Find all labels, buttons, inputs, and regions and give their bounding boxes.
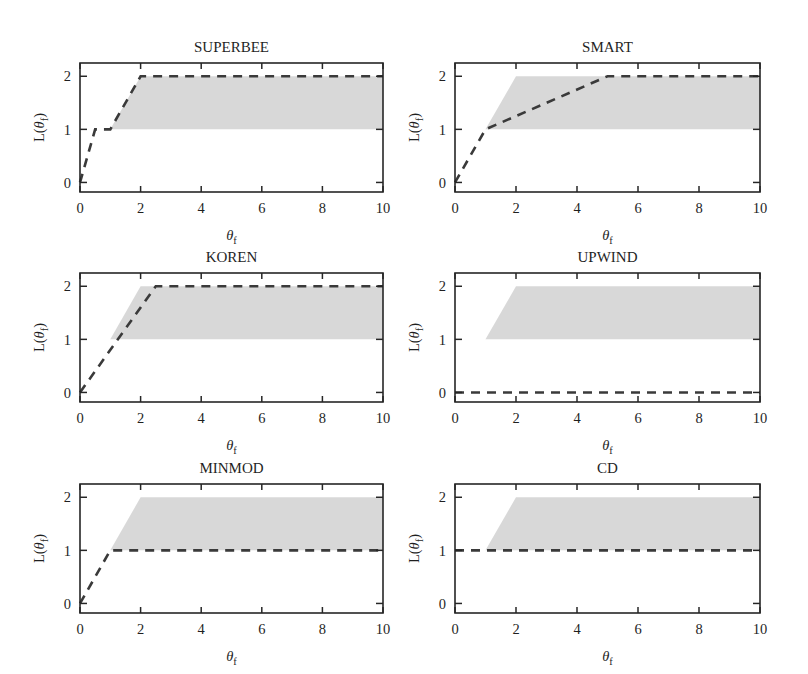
x-tick-label: 2 bbox=[512, 410, 519, 426]
y-tick-label: 1 bbox=[439, 122, 446, 138]
chart-title: KOREN bbox=[206, 249, 258, 265]
chart-title: SMART bbox=[582, 39, 633, 55]
x-axis-label: θf bbox=[226, 648, 237, 667]
x-tick-label: 6 bbox=[634, 410, 641, 426]
chart-panel-cd: CD0246810012θfL(θf) bbox=[403, 454, 778, 671]
chart-panel-smart: SMART0246810012θfL(θf) bbox=[403, 33, 778, 250]
y-tick-label: 0 bbox=[439, 385, 446, 401]
x-tick-label: 10 bbox=[753, 200, 768, 216]
x-tick-label: 6 bbox=[634, 621, 641, 637]
x-tick-label: 4 bbox=[573, 410, 581, 426]
y-tick-label: 2 bbox=[64, 278, 71, 294]
x-tick-label: 8 bbox=[319, 200, 326, 216]
tvd-region-band bbox=[80, 76, 383, 182]
chart-panel-superbee: SUPERBEE0246810012θfL(θf) bbox=[28, 33, 401, 250]
y-axis-label: L(θf) bbox=[406, 323, 425, 352]
x-tick-label: 2 bbox=[137, 621, 144, 637]
x-tick-label: 0 bbox=[76, 410, 83, 426]
y-axis-label: L(θf) bbox=[406, 113, 425, 142]
y-tick-label: 1 bbox=[439, 543, 446, 559]
chart-panel-upwind: UPWIND0246810012θfL(θf) bbox=[403, 243, 778, 460]
x-tick-label: 10 bbox=[753, 410, 768, 426]
x-tick-label: 2 bbox=[137, 200, 144, 216]
y-tick-label: 2 bbox=[64, 489, 71, 505]
y-tick-label: 2 bbox=[439, 68, 446, 84]
y-tick-label: 2 bbox=[439, 489, 446, 505]
chart-panel-minmod: MINMOD0246810012θfL(θf) bbox=[28, 454, 401, 671]
x-tick-label: 0 bbox=[76, 200, 83, 216]
y-tick-label: 0 bbox=[439, 596, 446, 612]
x-tick-label: 8 bbox=[695, 200, 702, 216]
x-tick-label: 8 bbox=[695, 621, 702, 637]
x-tick-label: 0 bbox=[76, 621, 83, 637]
x-tick-label: 8 bbox=[695, 410, 702, 426]
y-tick-label: 0 bbox=[439, 175, 446, 191]
y-tick-label: 1 bbox=[64, 543, 71, 559]
y-tick-label: 1 bbox=[64, 332, 71, 348]
tvd-region-band bbox=[455, 76, 760, 182]
y-tick-label: 2 bbox=[439, 278, 446, 294]
chart-title: MINMOD bbox=[199, 460, 263, 476]
x-tick-label: 0 bbox=[451, 410, 458, 426]
x-tick-label: 10 bbox=[753, 621, 768, 637]
tvd-region-band bbox=[455, 286, 760, 392]
y-axis-label: L(θf) bbox=[31, 534, 50, 563]
y-tick-label: 1 bbox=[64, 122, 71, 138]
x-tick-label: 8 bbox=[319, 621, 326, 637]
x-tick-label: 0 bbox=[451, 621, 458, 637]
x-tick-label: 6 bbox=[258, 621, 265, 637]
x-tick-label: 10 bbox=[376, 410, 391, 426]
x-tick-label: 4 bbox=[573, 200, 581, 216]
x-tick-label: 6 bbox=[258, 200, 265, 216]
x-tick-label: 8 bbox=[319, 410, 326, 426]
y-tick-label: 0 bbox=[64, 596, 71, 612]
limiter-curve bbox=[80, 550, 383, 603]
y-axis-label: L(θf) bbox=[31, 113, 50, 142]
y-tick-label: 0 bbox=[64, 175, 71, 191]
chart-title: SUPERBEE bbox=[194, 39, 269, 55]
x-tick-label: 2 bbox=[512, 621, 519, 637]
chart-panel-koren: KOREN0246810012θfL(θf) bbox=[28, 243, 401, 460]
x-tick-label: 4 bbox=[198, 200, 206, 216]
x-tick-label: 4 bbox=[198, 621, 206, 637]
y-axis-label: L(θf) bbox=[406, 534, 425, 563]
tvd-region-band bbox=[80, 286, 383, 392]
chart-title: UPWIND bbox=[578, 249, 638, 265]
x-tick-label: 4 bbox=[573, 621, 581, 637]
limiter-diagram-figure: SUPERBEE0246810012θfL(θf)SMART0246810012… bbox=[0, 0, 808, 674]
x-tick-label: 4 bbox=[198, 410, 206, 426]
y-tick-label: 1 bbox=[439, 332, 446, 348]
x-tick-label: 2 bbox=[512, 200, 519, 216]
x-axis-label: θf bbox=[602, 648, 613, 667]
y-tick-label: 2 bbox=[64, 68, 71, 84]
x-tick-label: 10 bbox=[376, 621, 391, 637]
x-tick-label: 6 bbox=[258, 410, 265, 426]
x-tick-label: 6 bbox=[634, 200, 641, 216]
chart-title: CD bbox=[597, 460, 618, 476]
x-tick-label: 2 bbox=[137, 410, 144, 426]
y-tick-label: 0 bbox=[64, 385, 71, 401]
x-tick-label: 0 bbox=[451, 200, 458, 216]
y-axis-label: L(θf) bbox=[31, 323, 50, 352]
x-tick-label: 10 bbox=[376, 200, 391, 216]
